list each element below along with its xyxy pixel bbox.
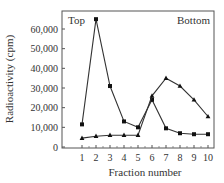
square-marker bbox=[122, 119, 126, 123]
square-marker bbox=[136, 125, 140, 129]
y-axis-title: Radioactivity (cpm) bbox=[3, 35, 16, 124]
square-marker bbox=[80, 122, 84, 126]
y-tick-label: 20,000 bbox=[31, 102, 59, 113]
y-tick-label: 30,000 bbox=[31, 83, 59, 94]
x-tick-label: 5 bbox=[136, 152, 141, 163]
y-tick-label: 10,000 bbox=[31, 122, 59, 133]
y-tick-label: 0 bbox=[53, 142, 58, 153]
x-tick-label: 1 bbox=[80, 152, 85, 163]
square-marker bbox=[206, 132, 210, 136]
x-tick-label: 4 bbox=[122, 152, 127, 163]
square-marker bbox=[178, 131, 182, 135]
triangle-marker bbox=[164, 76, 169, 80]
x-tick-label: 3 bbox=[108, 152, 113, 163]
square-marker bbox=[192, 132, 196, 136]
x-tick-label: 10 bbox=[203, 152, 213, 163]
y-tick-label: 50,000 bbox=[31, 43, 59, 54]
y-axis: 010,00020,00030,00040,00050,00060,000 bbox=[31, 24, 66, 153]
y-tick-label: 40,000 bbox=[31, 63, 59, 74]
y-tick-label: 60,000 bbox=[31, 24, 59, 35]
square-marker bbox=[164, 126, 168, 130]
chart: 010,00020,00030,00040,00050,00060,000 12… bbox=[0, 0, 224, 183]
top-label: Top bbox=[68, 14, 85, 26]
x-tick-label: 2 bbox=[94, 152, 99, 163]
x-tick-label: 6 bbox=[150, 152, 155, 163]
series-line-triangles bbox=[82, 78, 208, 138]
square-marker bbox=[108, 84, 112, 88]
data-series bbox=[80, 17, 211, 140]
x-axis-title: Fraction number bbox=[108, 166, 181, 178]
x-tick-label: 9 bbox=[192, 152, 197, 163]
x-tick-label: 7 bbox=[164, 152, 169, 163]
x-tick-label: 8 bbox=[178, 152, 183, 163]
bottom-label: Bottom bbox=[177, 14, 210, 26]
square-marker bbox=[94, 17, 98, 21]
